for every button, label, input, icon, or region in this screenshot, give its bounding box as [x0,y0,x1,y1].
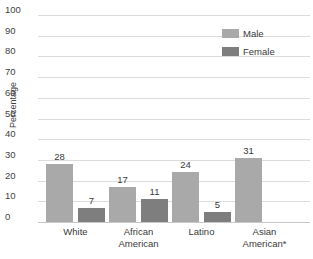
legend-label-female: Female [243,46,275,57]
x-axis-category-label: White [41,226,111,238]
gridline [38,139,310,140]
gridline [38,77,310,78]
bar-value-label: 28 [46,151,73,162]
x-axis-category-label: Asian American* [230,226,300,249]
bar-value-label: 24 [172,159,199,170]
y-axis-tick-label: 80 [5,45,35,56]
bar-female[interactable] [141,199,168,222]
legend-swatch-female-icon [222,47,239,56]
bar-female[interactable] [78,208,105,222]
bar-value-label: 17 [109,174,136,185]
y-axis-tick-label: 50 [5,108,35,119]
bar-male[interactable] [109,187,136,222]
bar-male[interactable] [172,172,199,222]
bar-female[interactable] [204,212,231,222]
legend-item-female[interactable]: Female [222,44,275,59]
legend-item-male[interactable]: Male [222,26,275,41]
y-axis-tick-label: 0 [5,211,35,222]
y-axis-tick-label: 20 [5,170,35,181]
bar-chart: — —— — ——— Percentage 287171124531 10090… [0,0,313,259]
y-axis-tick-label: 70 [5,66,35,77]
bar-value-label: 31 [235,145,262,156]
legend-swatch-male-icon [222,29,239,38]
gridline [38,222,310,223]
bar-male[interactable] [46,164,73,222]
bar-male[interactable] [235,158,262,222]
y-axis-tick-label: 30 [5,149,35,160]
y-axis-tick-label: 100 [5,4,35,15]
bar-value-label: 5 [204,199,231,210]
legend: Male Female [222,26,275,62]
bar-value-label: 11 [141,186,168,197]
legend-label-male: Male [243,28,264,39]
y-axis-tick-label: 60 [5,87,35,98]
gridline [38,15,310,16]
y-axis-tick-label: 10 [5,190,35,201]
x-axis-category-label: African American [104,226,174,249]
y-axis-tick-label: 40 [5,128,35,139]
gridline [38,98,310,99]
x-axis-category-label: Latino [167,226,237,238]
y-axis-tick-label: 90 [5,25,35,36]
bar-value-label: 7 [78,195,105,206]
gridline [38,119,310,120]
